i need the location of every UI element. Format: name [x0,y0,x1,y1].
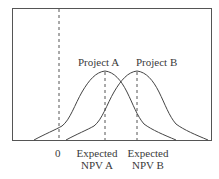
zero-tick-label: 0 [55,147,61,159]
plot-frame [13,9,212,141]
project-a-curve [34,71,176,140]
expected-npv-a-label: Expected NPV A [74,147,120,171]
expected-a-line2: NPV A [74,159,120,171]
project-a-label: Project A [78,56,119,68]
expected-npv-b-label: Expected NPV B [125,147,171,171]
expected-b-line2: NPV B [125,159,171,171]
expected-b-line1: Expected [125,147,171,159]
expected-a-line1: Expected [74,147,120,159]
project-b-label: Project B [136,56,177,68]
project-b-curve [66,71,208,140]
